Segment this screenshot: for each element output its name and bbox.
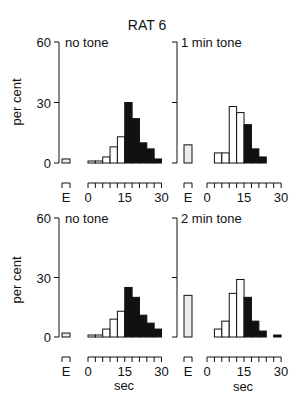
histogram-bar-filled xyxy=(139,143,146,163)
histogram-bar-filled xyxy=(251,321,258,337)
histogram-bar-filled xyxy=(259,331,266,337)
y-axis-label-bottom: per cent xyxy=(9,256,24,303)
y-axis-label-top: per cent xyxy=(9,78,24,125)
histogram-bar-open xyxy=(95,335,102,337)
x-tick-label: 30 xyxy=(154,364,168,379)
escape-bar xyxy=(184,295,192,337)
histogram-bar-filled xyxy=(147,323,154,337)
e-axis-bracket xyxy=(62,357,70,362)
x-tick-label: 15 xyxy=(118,364,132,379)
e-axis-bracket xyxy=(184,357,192,362)
y-tick-label: 60 xyxy=(37,211,51,226)
x-tick-label: 0 xyxy=(84,190,91,205)
histogram-panel: 1 min toneE01530 xyxy=(172,35,288,205)
x-tick-label: 30 xyxy=(274,190,288,205)
panel-title: no tone xyxy=(65,211,108,226)
y-tick-label: 60 xyxy=(37,35,51,50)
figure-title: RAT 6 xyxy=(128,17,167,33)
histogram-bar-filled xyxy=(154,329,161,337)
escape-bar xyxy=(62,333,70,337)
escape-bar xyxy=(62,159,70,163)
histogram-bar-filled xyxy=(132,119,139,163)
histogram-bar-open xyxy=(237,279,244,337)
escape-bar xyxy=(184,145,192,163)
x-axis-label-left: sec xyxy=(114,378,135,393)
histogram-bar-filled xyxy=(259,157,266,163)
histogram-figure: RAT 6 per cent per cent sec sec 03060no … xyxy=(0,0,297,408)
histogram-bar-filled xyxy=(244,125,251,163)
panel-title: 1 min tone xyxy=(181,35,242,50)
x-tick-label: 0 xyxy=(203,364,210,379)
x-tick-label: 30 xyxy=(154,190,168,205)
histogram-bar-filled xyxy=(125,287,132,337)
e-axis-bracket xyxy=(184,183,192,188)
chart-canvas: RAT 6 per cent per cent sec sec 03060no … xyxy=(0,0,297,408)
x-tick-label: 15 xyxy=(118,190,132,205)
histogram-bar-filled xyxy=(147,149,154,163)
histogram-bar-open xyxy=(237,113,244,163)
histogram-bar-open xyxy=(88,335,95,337)
histogram-bar-open xyxy=(110,319,117,337)
y-tick-label: 30 xyxy=(37,96,51,111)
x-tick-label: 30 xyxy=(274,364,288,379)
e-tick-label: E xyxy=(184,364,193,379)
x-tick-label: 15 xyxy=(237,190,251,205)
histogram-bar-filled xyxy=(125,103,132,164)
histogram-bar-open xyxy=(103,329,110,337)
histogram-panel: 2 min toneE01530 xyxy=(172,211,288,379)
e-tick-label: E xyxy=(184,190,193,205)
histogram-bar-open xyxy=(229,293,236,337)
histogram-panel: 03060no toneE01530 xyxy=(37,211,169,379)
histogram-bar-open xyxy=(222,321,229,337)
e-tick-label: E xyxy=(62,190,71,205)
histogram-bar-open xyxy=(117,137,124,163)
panels: 03060no toneE015301 min toneE0153003060n… xyxy=(37,35,289,379)
e-tick-label: E xyxy=(62,364,71,379)
histogram-bar-filled xyxy=(132,297,139,337)
x-axis-label-right: sec xyxy=(233,379,254,394)
histogram-bar-open xyxy=(222,153,229,163)
x-tick-label: 15 xyxy=(237,364,251,379)
x-tick-label: 0 xyxy=(203,190,210,205)
histogram-bar-open xyxy=(103,157,110,163)
x-tick-label: 0 xyxy=(84,364,91,379)
y-tick-label: 0 xyxy=(44,156,51,171)
histogram-bar-open xyxy=(117,311,124,337)
histogram-bar-open xyxy=(229,107,236,163)
histogram-bar-filled xyxy=(139,315,146,337)
histogram-bar-filled xyxy=(244,297,251,337)
panel-title: 2 min tone xyxy=(181,211,242,226)
histogram-bar-open xyxy=(110,147,117,163)
panel-title: no tone xyxy=(65,35,108,50)
histogram-bar-filled xyxy=(274,335,281,337)
histogram-bar-open xyxy=(95,161,102,163)
y-tick-label: 30 xyxy=(37,271,51,286)
histogram-panel: 03060no toneE01530 xyxy=(37,35,169,205)
histogram-bar-open xyxy=(88,161,95,163)
histogram-bar-open xyxy=(214,153,221,163)
e-axis-bracket xyxy=(62,183,70,188)
histogram-bar-open xyxy=(214,329,221,337)
histogram-bar-filled xyxy=(251,149,258,163)
y-tick-label: 0 xyxy=(44,330,51,345)
histogram-bar-filled xyxy=(154,159,161,163)
